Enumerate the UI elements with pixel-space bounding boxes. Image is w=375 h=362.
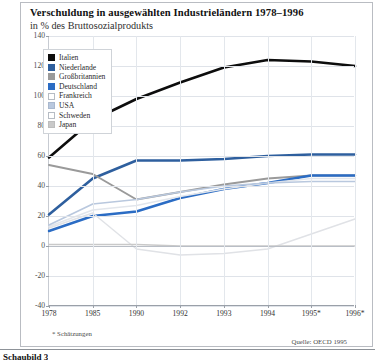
- legend-item-label: Großbritannien: [59, 72, 105, 82]
- gridline-horizontal: [49, 276, 354, 277]
- gridline-vertical: [180, 36, 181, 305]
- legend-swatch-icon: [48, 121, 55, 128]
- gridline-horizontal: [49, 246, 354, 247]
- x-axis-tick-label: 1993: [216, 310, 231, 318]
- y-axis-tick-label: 140: [34, 32, 45, 40]
- gridline-vertical: [268, 36, 269, 305]
- gridline-horizontal: [49, 306, 354, 307]
- legend-item-label: Japan: [59, 120, 76, 130]
- x-axis-tick-label: 1994: [260, 310, 275, 318]
- x-axis-tick-label: 1995*: [302, 310, 321, 318]
- legend-item-label: Niederlande: [59, 63, 96, 73]
- y-axis-tick-mark: [46, 36, 49, 37]
- legend-item-label: USA: [59, 101, 74, 111]
- x-axis-tick-label: 1985: [85, 310, 100, 318]
- y-axis-tick-label: 60: [37, 152, 45, 160]
- legend-item: Japan: [48, 120, 105, 130]
- legend-item-label: Schweden: [59, 111, 90, 121]
- source-note: Quelle: OECD 1995: [291, 338, 347, 345]
- y-axis-tick-label: 40: [37, 182, 45, 190]
- x-axis-tick-mark: [180, 305, 181, 308]
- legend-item: Frankreich: [48, 91, 105, 101]
- caption-divider: [0, 349, 375, 350]
- chart-figure: Verschuldung in ausgewählten Industrielä…: [0, 0, 375, 362]
- legend-item: Italien: [48, 53, 105, 63]
- x-axis-tick-mark: [224, 305, 225, 308]
- chart-header: Verschuldung in ausgewählten Industrielä…: [30, 6, 360, 32]
- x-axis-tick-label: 1978: [41, 310, 56, 318]
- x-axis-tick-label: 1990: [129, 310, 144, 318]
- gridline-vertical: [136, 36, 137, 305]
- x-axis-tick-mark: [136, 305, 137, 308]
- y-axis-tick-mark: [46, 276, 49, 277]
- y-axis-tick-label: 20: [37, 212, 45, 220]
- legend-item: Deutschland: [48, 82, 105, 92]
- x-axis-tick-mark: [355, 305, 356, 308]
- legend-item-label: Italien: [59, 53, 78, 63]
- gridline-vertical: [224, 36, 225, 305]
- x-axis-tick-mark: [268, 305, 269, 308]
- gridline-horizontal: [49, 186, 354, 187]
- y-axis-tick-mark: [46, 156, 49, 157]
- chart-subtitle: in % des Bruttosozialprodukts: [30, 19, 360, 32]
- legend-item: USA: [48, 101, 105, 111]
- legend-swatch-icon: [48, 73, 55, 80]
- legend-swatch-icon: [48, 64, 55, 71]
- gridline-vertical: [355, 36, 356, 305]
- legend-item-label: Frankreich: [59, 91, 92, 101]
- gridline-horizontal: [49, 36, 354, 37]
- page-title: Verschuldung in ausgewählten Industrielä…: [30, 6, 360, 19]
- legend-swatch-icon: [48, 54, 55, 61]
- series-line: [49, 213, 355, 255]
- chart-legend: ItalienNiederlandeGroßbritannienDeutschl…: [43, 49, 112, 134]
- y-axis-tick-mark: [46, 216, 49, 217]
- legend-swatch-icon: [48, 102, 55, 109]
- y-axis-tick-mark: [46, 246, 49, 247]
- figure-caption: Schaubild 3: [3, 352, 48, 362]
- legend-item-label: Deutschland: [59, 82, 97, 92]
- legend-swatch-icon: [48, 112, 55, 119]
- legend-item: Großbritannien: [48, 72, 105, 82]
- x-axis-tick-label: 1992: [173, 310, 188, 318]
- x-axis-tick-mark: [93, 305, 94, 308]
- x-axis-tick-label: 1996*: [346, 310, 365, 318]
- gridline-horizontal: [49, 156, 354, 157]
- legend-swatch-icon: [48, 83, 55, 90]
- footnote: * Schätzungen: [52, 330, 92, 337]
- x-axis-tick-mark: [49, 305, 50, 308]
- x-axis-tick-mark: [311, 305, 312, 308]
- series-line: [49, 155, 355, 215]
- y-axis-tick-mark: [46, 186, 49, 187]
- y-axis-tick-label: -20: [35, 272, 45, 280]
- legend-item: Niederlande: [48, 63, 105, 73]
- legend-item: Schweden: [48, 111, 105, 121]
- legend-swatch-icon: [48, 93, 55, 100]
- y-axis-tick-label: 0: [41, 242, 45, 250]
- gridline-vertical: [311, 36, 312, 305]
- gridline-horizontal: [49, 216, 354, 217]
